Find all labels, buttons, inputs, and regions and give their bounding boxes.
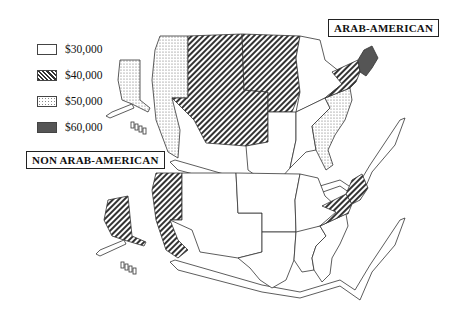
region-new-england — [358, 46, 378, 76]
swatch-60000 — [37, 122, 57, 133]
region-alaska — [104, 196, 146, 246]
region-hawaii — [121, 262, 136, 274]
legend-item: $30,000 — [37, 36, 102, 62]
legend-label: $40,000 — [65, 69, 102, 81]
swatch-50000 — [37, 96, 57, 107]
bottom-map-title: NON ARAB-AMERICAN — [26, 151, 165, 169]
legend-item: $50,000 — [37, 88, 102, 114]
swatch-40000 — [37, 70, 57, 81]
legend-label: $60,000 — [65, 121, 102, 133]
region-hawaii — [131, 122, 146, 134]
legend: $30,000 $40,000 $50,000 $60,000 — [37, 36, 102, 140]
swatch-30000 — [37, 44, 57, 55]
top-map-title: ARAB-AMERICAN — [328, 19, 439, 37]
region-pacific — [152, 36, 188, 158]
legend-label: $50,000 — [65, 95, 102, 107]
map-non-arab-american — [96, 173, 405, 300]
region-alaska — [118, 60, 150, 112]
legend-item: $60,000 — [37, 114, 102, 140]
legend-label: $30,000 — [65, 43, 102, 55]
legend-item: $40,000 — [37, 62, 102, 88]
